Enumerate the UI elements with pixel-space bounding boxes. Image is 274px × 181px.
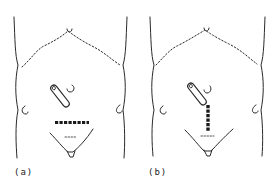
right-hip-mark xyxy=(252,105,258,113)
groin-outline xyxy=(185,129,233,151)
xiphoid-mark xyxy=(204,28,209,31)
xiphoid-mark xyxy=(67,29,72,32)
panel-label-a: (a) xyxy=(14,167,33,177)
stoma-icon xyxy=(186,82,207,106)
figure-canvas xyxy=(0,0,274,181)
left-hip-mark xyxy=(160,106,166,114)
costal-margin-dotted xyxy=(22,31,120,67)
costal-margin-dotted xyxy=(156,30,257,65)
right-body-outline xyxy=(261,17,265,156)
left-hip-mark xyxy=(22,106,28,114)
umbilicus-icon xyxy=(204,86,211,93)
right-body-outline xyxy=(123,17,127,158)
left-body-outline xyxy=(14,17,18,158)
groin-outline xyxy=(50,129,93,152)
left-body-outline xyxy=(150,17,154,156)
umbilicus-icon xyxy=(67,85,74,92)
stoma-icon xyxy=(49,84,70,108)
right-hip-mark xyxy=(116,105,122,113)
panel-b-drawing xyxy=(150,17,265,156)
panel-a-drawing xyxy=(14,17,127,158)
panel-label-b: (b) xyxy=(148,167,167,177)
